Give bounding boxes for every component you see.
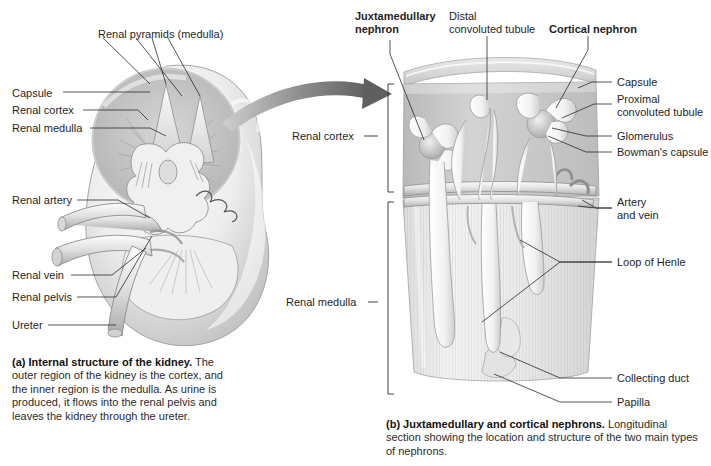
label-capsule-b: Capsule: [617, 76, 657, 89]
label-juxtamedullary-nephron: Juxtamedullary nephron: [355, 10, 436, 35]
label-distal-convoluted-tubule: Distal convoluted tubule: [449, 10, 535, 35]
label-loop-of-henle: Loop of Henle: [617, 256, 686, 269]
label-renal-pelvis: Renal pelvis: [12, 291, 72, 304]
region-brackets: [364, 84, 394, 394]
label-glomerulus: Glomerulus: [617, 130, 673, 143]
label-papilla: Papilla: [617, 396, 650, 409]
kidney-illustration: [52, 65, 269, 346]
label-renal-cortex-b: Renal cortex: [292, 130, 354, 143]
label-artery-and-vein: Artery and vein: [617, 196, 659, 221]
caption-a: (a) Internal structure of the kidney. Th…: [12, 356, 238, 423]
medulla-bracket: [388, 202, 394, 394]
caption-a-lead: (a) Internal structure of the kidney.: [12, 356, 192, 368]
label-capsule-a: Capsule: [12, 87, 52, 100]
label-cortical-nephron: Cortical nephron: [549, 23, 637, 36]
caption-b-lead: (b) Juxtamedullary and cortical nephrons…: [386, 418, 605, 430]
label-ureter: Ureter: [12, 319, 43, 332]
cortex-bracket: [388, 84, 394, 192]
label-renal-pyramids: Renal pyramids (medulla): [98, 28, 223, 41]
label-renal-artery: Renal artery: [12, 194, 72, 207]
label-renal-vein: Renal vein: [12, 269, 64, 282]
label-collecting-duct: Collecting duct: [617, 372, 689, 385]
nephron-illustration: [403, 57, 599, 381]
calyx-opening: [159, 160, 177, 184]
label-proximal-convoluted-tubule: Proximal convoluted tubule: [617, 93, 703, 118]
label-renal-medulla-b: Renal medulla: [286, 296, 356, 309]
caption-b: (b) Juxtamedullary and cortical nephrons…: [386, 418, 704, 458]
figure-root: Renal pyramids (medulla) Capsule Renal c…: [0, 0, 711, 466]
label-bowmans-capsule: Bowman's capsule: [617, 146, 708, 159]
label-renal-cortex-a: Renal cortex: [12, 104, 74, 117]
label-renal-medulla-a: Renal medulla: [12, 122, 82, 135]
